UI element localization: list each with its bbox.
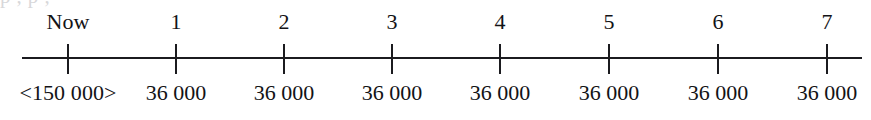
timeline-tick-7 [826,44,828,74]
amount-label-1: 36 000 [146,80,207,106]
timeline-tick-0 [67,44,69,74]
period-label-1: 1 [171,9,182,35]
amount-label-7: 36 000 [797,80,858,106]
timeline-axis-line [22,57,862,59]
amount-label-5: 36 000 [579,80,640,106]
amount-label-0: <150 000> [19,80,116,106]
amount-label-4: 36 000 [470,80,531,106]
timeline-tick-2 [283,44,285,74]
period-label-6: 6 [713,9,724,35]
period-label-7: 7 [822,9,833,35]
timeline-tick-1 [175,44,177,74]
timeline-tick-5 [608,44,610,74]
amount-label-3: 36 000 [362,80,423,106]
period-label-3: 3 [387,9,398,35]
amount-label-6: 36 000 [688,80,749,106]
timeline-tick-6 [717,44,719,74]
clipped-text-above: p , p , [0,0,871,5]
period-label-5: 5 [604,9,615,35]
period-label-2: 2 [279,9,290,35]
period-label-4: 4 [495,9,506,35]
timeline-tick-4 [499,44,501,74]
timeline-tick-3 [391,44,393,74]
period-label-0: Now [47,9,90,35]
cash-flow-timeline-diagram: p , p , Now1234567 <150 000>36 00036 000… [0,0,871,120]
amount-label-2: 36 000 [254,80,315,106]
